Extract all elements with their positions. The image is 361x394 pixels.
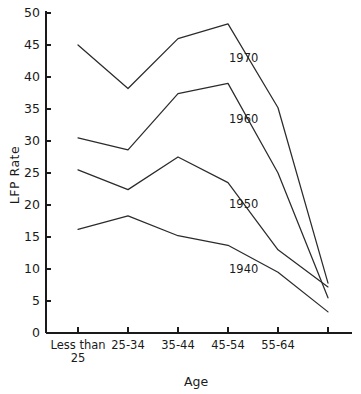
series-line-1960 bbox=[78, 83, 328, 297]
y-tick-label: 40 bbox=[24, 69, 40, 84]
x-axis-title: Age bbox=[184, 374, 208, 389]
chart-figure: 1970196019501940 05101520253035404550 Le… bbox=[0, 0, 361, 394]
x-tick-label-group: Less than2525-3435-4445-5455-64 bbox=[50, 338, 294, 365]
series-label-1960: 1960 bbox=[229, 112, 258, 126]
y-tick-label: 25 bbox=[24, 165, 40, 180]
x-tick-label: 25-34 bbox=[111, 338, 144, 352]
series-label-1950: 1950 bbox=[229, 197, 258, 211]
x-axis-tick-group bbox=[78, 327, 328, 333]
x-tick-label-line2: 25 bbox=[71, 351, 86, 365]
y-tick-label: 20 bbox=[24, 197, 40, 212]
y-tick-label: 5 bbox=[32, 293, 40, 308]
y-tick-label: 35 bbox=[24, 101, 40, 116]
series-line-1970 bbox=[78, 24, 328, 283]
y-tick-label: 50 bbox=[24, 5, 40, 20]
series-label-group: 1970196019501940 bbox=[229, 51, 258, 276]
y-axis-title: LFP Rate bbox=[7, 146, 22, 204]
lfp-rate-line-chart: 1970196019501940 05101520253035404550 Le… bbox=[0, 0, 361, 394]
y-tick-label: 10 bbox=[24, 261, 40, 276]
x-tick-label: Less than bbox=[50, 338, 105, 352]
x-tick-label: 55-64 bbox=[261, 338, 294, 352]
series-group bbox=[78, 24, 328, 312]
y-tick-label: 45 bbox=[24, 37, 40, 52]
y-tick-label-group: 05101520253035404550 bbox=[24, 5, 40, 340]
y-tick-label: 15 bbox=[24, 229, 40, 244]
x-tick-label: 45-54 bbox=[211, 338, 244, 352]
series-label-1970: 1970 bbox=[229, 51, 258, 65]
series-line-1940 bbox=[78, 216, 328, 312]
series-label-1940: 1940 bbox=[229, 262, 258, 276]
y-tick-label: 0 bbox=[32, 325, 40, 340]
x-tick-label: 35-44 bbox=[161, 338, 194, 352]
y-axis-tick-group bbox=[46, 13, 51, 333]
series-line-1950 bbox=[78, 157, 328, 287]
y-tick-label: 30 bbox=[24, 133, 40, 148]
